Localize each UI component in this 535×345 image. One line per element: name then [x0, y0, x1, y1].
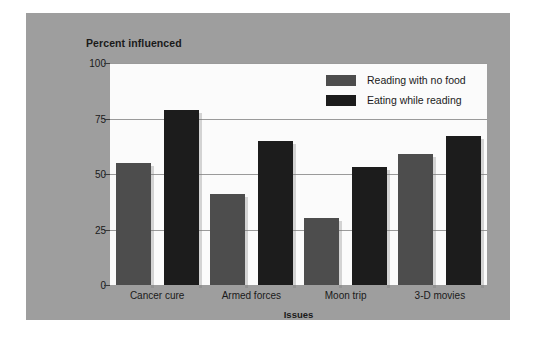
- legend-label-series-0: Reading with no food: [367, 74, 466, 86]
- x-axis-category-label: 3-D movies: [415, 290, 466, 301]
- figure-canvas: Percent influenced 0255075100 Issues Rea…: [0, 0, 535, 345]
- x-axis-category-label: Moon trip: [325, 290, 367, 301]
- page-title: Percent influenced: [86, 37, 182, 49]
- y-axis-tick-mark: [104, 63, 110, 64]
- gridline: [110, 63, 487, 64]
- y-axis-tick-label: 50: [80, 169, 106, 180]
- legend-item-series-0[interactable]: Reading with no food: [326, 71, 466, 89]
- x-axis-category-label: Armed forces: [222, 290, 281, 301]
- chart-panel: Percent influenced 0255075100 Issues Rea…: [26, 13, 510, 320]
- y-axis-tick-mark: [104, 119, 110, 120]
- bar-3-d-movies-series-0[interactable]: [398, 154, 433, 285]
- chart-legend: Reading with no food Eating while readin…: [326, 71, 466, 111]
- bar-moon-trip-series-0[interactable]: [304, 218, 339, 285]
- bar-3-d-movies-series-1[interactable]: [446, 136, 481, 285]
- legend-swatch-icon-series-1: [326, 95, 356, 106]
- bar-moon-trip-series-1[interactable]: [352, 167, 387, 285]
- x-axis-title: Issues: [110, 309, 487, 320]
- y-axis-tick-label: 75: [80, 113, 106, 124]
- legend-swatch-icon-series-0: [326, 75, 356, 86]
- y-axis-tick-mark: [104, 285, 110, 286]
- y-axis-tick-mark: [104, 174, 110, 175]
- legend-item-series-1[interactable]: Eating while reading: [326, 91, 466, 109]
- legend-label-series-1: Eating while reading: [367, 94, 462, 106]
- bar-armed-forces-series-0[interactable]: [210, 194, 245, 285]
- y-axis-tick-mark: [104, 230, 110, 231]
- bar-cancer-cure-series-1[interactable]: [164, 110, 199, 285]
- bar-cancer-cure-series-0[interactable]: [116, 163, 151, 285]
- y-axis-tick-label: 0: [80, 280, 106, 291]
- x-axis-category-label: Cancer cure: [130, 290, 184, 301]
- bar-armed-forces-series-1[interactable]: [258, 141, 293, 285]
- y-axis-tick-label: 100: [80, 58, 106, 69]
- y-axis-tick-label: 25: [80, 224, 106, 235]
- y-axis: 0255075100: [78, 63, 106, 285]
